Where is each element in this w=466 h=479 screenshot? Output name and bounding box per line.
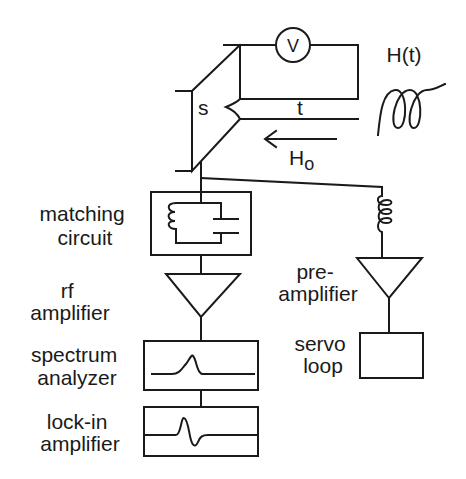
pickup-coil-icon [378,192,391,258]
pre-amplifier-label: pre- amplifier [278,260,357,305]
modulation-field-label: H(t) [387,43,422,66]
spectrum-analyzer-label: spectrum analyzer [31,343,123,389]
thickness-label: t [297,96,303,119]
branch-wire [201,178,382,192]
derivative-signal-trace [144,418,258,446]
voltmeter-label: V [287,36,299,56]
servo-loop-block [360,333,423,378]
measurement-setup-diagram: s V t Ho H(t) matching circuit rf [0,0,466,479]
sample-label: s [198,96,209,119]
lock-in-amplifier-block [144,407,258,456]
resonance-peak-trace [152,355,254,374]
lock-in-amplifier-label: lock-in amplifier [40,410,119,455]
static-field-arrow [265,131,336,147]
spectrum-analyzer-block [144,341,258,390]
matching-circuit-block [151,192,251,255]
matching-circuit-label: matching circuit [39,202,130,249]
modulation-coil-icon [378,84,445,135]
servo-loop-label: servo loop [294,332,351,377]
rf-amplifier-label: rf amplifier [30,279,109,324]
static-field-label: Ho [289,146,314,174]
rf-amplifier-icon [166,274,240,317]
pre-amplifier-icon [357,258,422,298]
